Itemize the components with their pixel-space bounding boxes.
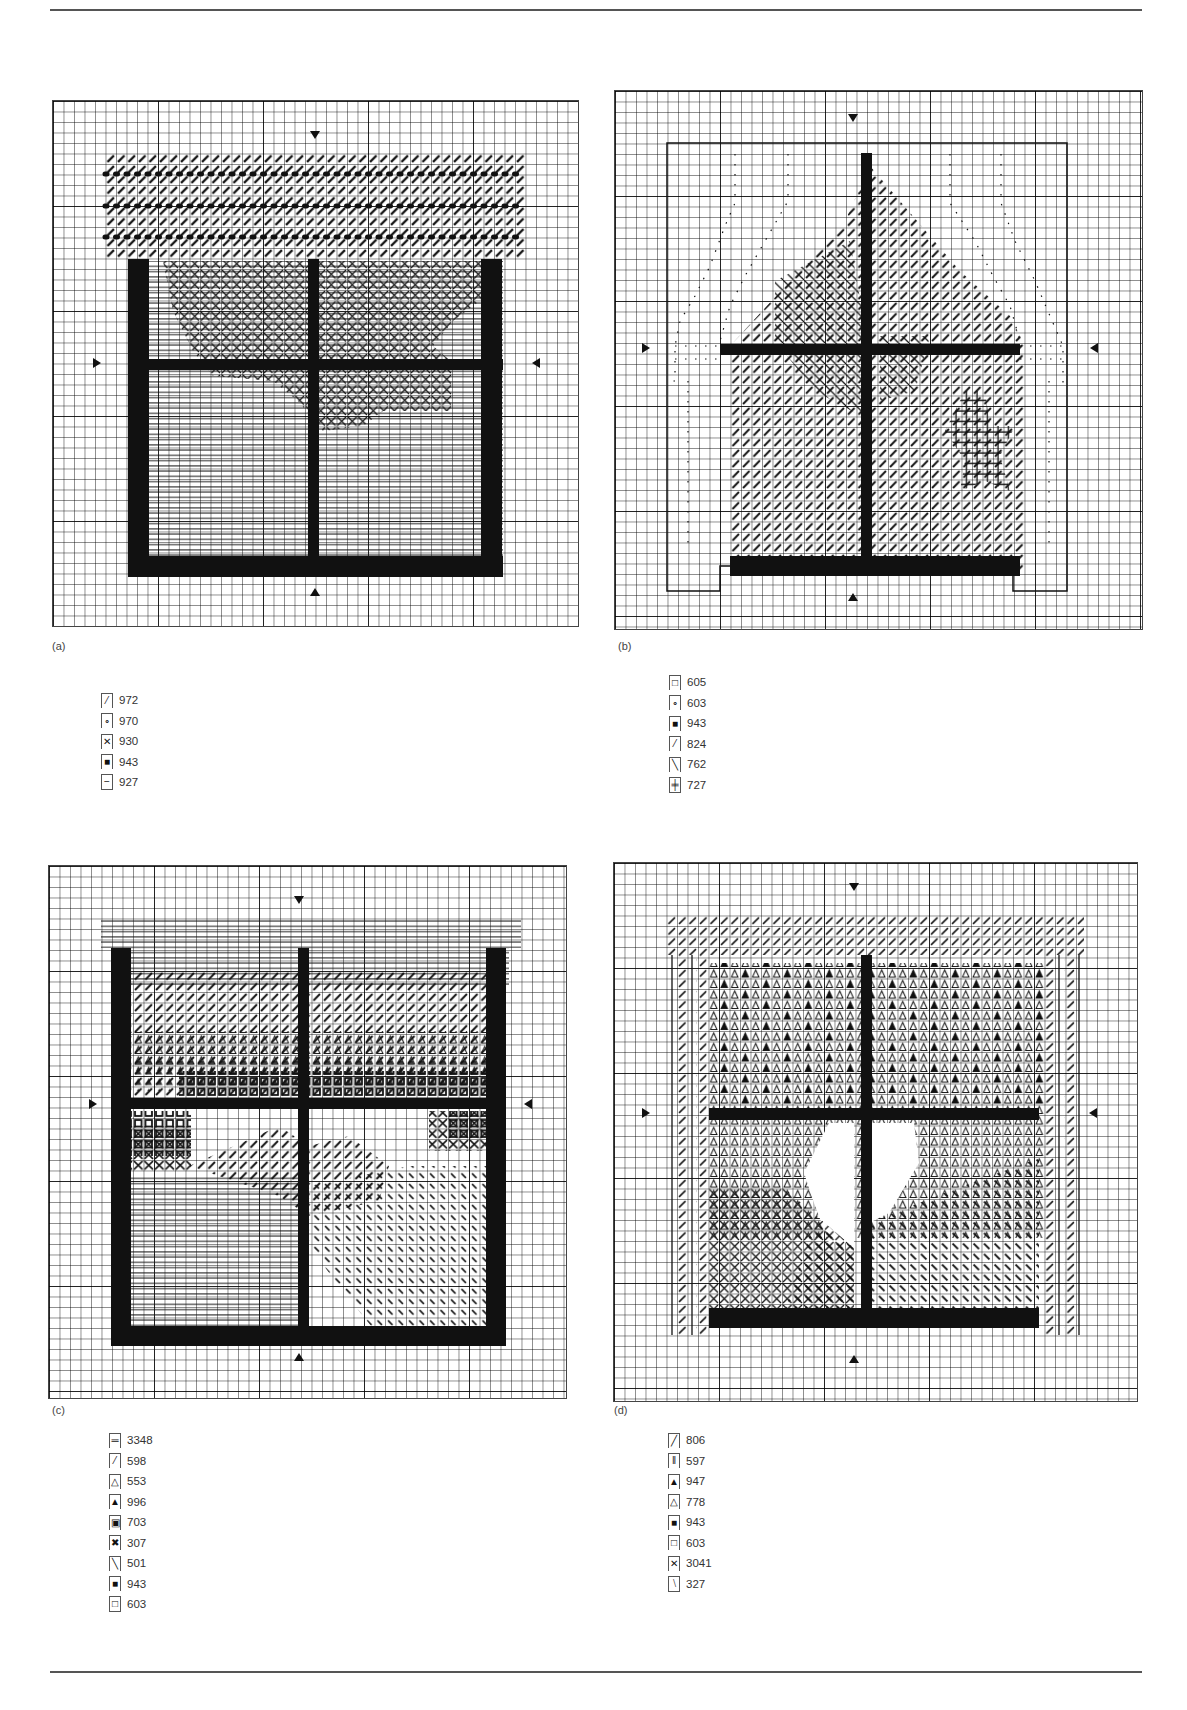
color-key-c: ═3348 ⁄598 △553 ▲996 ▣703 ✖307 ╲501 ■943… bbox=[109, 1430, 153, 1615]
solid-symbol-icon: ■ bbox=[101, 754, 113, 769]
thread-code: 603 bbox=[686, 1537, 705, 1549]
figure-label-d: (d) bbox=[614, 1404, 627, 1416]
thread-code: 806 bbox=[686, 1434, 705, 1446]
figure-label-b: (b) bbox=[618, 640, 631, 652]
window-pattern-b bbox=[615, 91, 1142, 629]
figure-label-c: (c) bbox=[52, 1404, 65, 1416]
key-row: ▣703 bbox=[109, 1512, 153, 1533]
thread-code: 605 bbox=[687, 676, 706, 688]
thread-code: 972 bbox=[119, 694, 138, 706]
thread-code: 597 bbox=[686, 1455, 705, 1467]
filled-triangle-symbol-icon: ▲ bbox=[668, 1474, 680, 1489]
key-row: ╲501 bbox=[109, 1553, 153, 1574]
backslash-symbol-icon: ╲ bbox=[669, 757, 681, 772]
key-row: ■943 bbox=[109, 1574, 153, 1595]
thread-code: 927 bbox=[119, 776, 138, 788]
window-pattern-a bbox=[53, 101, 578, 626]
thread-code: 327 bbox=[686, 1578, 705, 1590]
key-row: ✕3041 bbox=[668, 1553, 712, 1574]
thread-code: 553 bbox=[127, 1475, 146, 1487]
thread-code: 307 bbox=[127, 1537, 146, 1549]
empty-square-symbol-icon: □ bbox=[669, 675, 681, 690]
color-key-d: ╱806 ‖597 ▲947 △778 ■943 □603 ✕3041 ⧵327 bbox=[668, 1430, 712, 1594]
key-row: ‖597 bbox=[668, 1451, 712, 1472]
bold-square-symbol-icon: ▣ bbox=[109, 1515, 121, 1530]
key-row: ■943 bbox=[669, 713, 706, 734]
thread-code: 943 bbox=[127, 1578, 146, 1590]
key-row: ∘603 bbox=[669, 693, 706, 714]
thread-code: 778 bbox=[686, 1496, 705, 1508]
thread-code: 947 bbox=[686, 1475, 705, 1487]
vertical-bars-symbol-icon: ‖ bbox=[668, 1453, 680, 1468]
thread-code: 943 bbox=[686, 1516, 705, 1528]
backslash-symbol-icon: ╲ bbox=[109, 1556, 121, 1571]
thread-code: 762 bbox=[687, 758, 706, 770]
slash-symbol-icon: ╱ bbox=[668, 1433, 680, 1448]
key-row: ╱806 bbox=[668, 1430, 712, 1451]
window-pattern-c bbox=[49, 866, 566, 1398]
bold-cross-symbol-icon: ✖ bbox=[109, 1535, 121, 1550]
stitch-grid-b bbox=[614, 90, 1143, 630]
circle-symbol-icon: ∘ bbox=[101, 713, 113, 728]
window-pattern-d bbox=[614, 863, 1137, 1401]
key-row: ⁄824 bbox=[669, 734, 706, 755]
key-row: ✕930 bbox=[101, 731, 138, 752]
key-row: ▲996 bbox=[109, 1492, 153, 1513]
solid-symbol-icon: ■ bbox=[669, 716, 681, 731]
thread-code: 603 bbox=[127, 1598, 146, 1610]
figure-label-a: (a) bbox=[52, 640, 65, 652]
key-row: □605 bbox=[669, 672, 706, 693]
key-row: ■943 bbox=[668, 1512, 712, 1533]
empty-square-symbol-icon: □ bbox=[109, 1596, 121, 1612]
key-row: □603 bbox=[668, 1533, 712, 1554]
empty-square-symbol-icon: □ bbox=[668, 1535, 680, 1550]
backslash-bold-symbol-icon: ⧵ bbox=[668, 1576, 680, 1592]
thread-code: 930 bbox=[119, 735, 138, 747]
filled-triangle-symbol-icon: ▲ bbox=[109, 1494, 121, 1509]
plus-symbol-icon: ╪ bbox=[669, 777, 681, 793]
circle-symbol-icon: ∘ bbox=[669, 695, 681, 710]
horizontal-line-symbol-icon: − bbox=[101, 774, 113, 790]
key-row: ⁄972 bbox=[101, 690, 138, 711]
key-row: ■943 bbox=[101, 752, 138, 773]
key-row: ⧵327 bbox=[668, 1574, 712, 1595]
slash-bold-symbol-icon: ⁄ bbox=[109, 1453, 121, 1468]
key-row: □603 bbox=[109, 1594, 153, 1615]
thread-code: 3041 bbox=[686, 1557, 712, 1569]
thread-code: 824 bbox=[687, 738, 706, 750]
cross-symbol-icon: ✕ bbox=[668, 1556, 680, 1571]
solid-symbol-icon: ■ bbox=[668, 1515, 680, 1530]
key-row: ▲947 bbox=[668, 1471, 712, 1492]
thread-code: 727 bbox=[687, 779, 706, 791]
open-triangle-symbol-icon: △ bbox=[668, 1494, 680, 1509]
slash-bold-symbol-icon: ⁄ bbox=[101, 693, 113, 708]
thread-code: 943 bbox=[119, 756, 138, 768]
stitch-grid-d bbox=[613, 862, 1138, 1402]
cross-symbol-icon: ✕ bbox=[101, 734, 113, 749]
thread-code: 996 bbox=[127, 1496, 146, 1508]
top-rule bbox=[50, 9, 1142, 11]
thread-code: 3348 bbox=[127, 1434, 153, 1446]
slash-bold-symbol-icon: ⁄ bbox=[669, 736, 681, 751]
stitch-grid-a bbox=[52, 100, 579, 627]
key-row: −927 bbox=[101, 772, 138, 793]
key-row: ✖307 bbox=[109, 1533, 153, 1554]
key-row: ╪727 bbox=[669, 775, 706, 796]
key-row: ⁄598 bbox=[109, 1451, 153, 1472]
thread-code: 603 bbox=[687, 697, 706, 709]
key-row: △553 bbox=[109, 1471, 153, 1492]
open-triangle-symbol-icon: △ bbox=[109, 1474, 121, 1489]
thread-code: 501 bbox=[127, 1557, 146, 1569]
bottom-rule bbox=[50, 1671, 1142, 1673]
key-row: ∘970 bbox=[101, 711, 138, 732]
key-row: ╲762 bbox=[669, 754, 706, 775]
solid-symbol-icon: ■ bbox=[109, 1576, 121, 1591]
double-line-symbol-icon: ═ bbox=[109, 1433, 121, 1448]
thread-code: 943 bbox=[687, 717, 706, 729]
stitch-grid-c bbox=[48, 865, 567, 1399]
thread-code: 598 bbox=[127, 1455, 146, 1467]
key-row: △778 bbox=[668, 1492, 712, 1513]
thread-code: 970 bbox=[119, 715, 138, 727]
thread-code: 703 bbox=[127, 1516, 146, 1528]
key-row: ═3348 bbox=[109, 1430, 153, 1451]
